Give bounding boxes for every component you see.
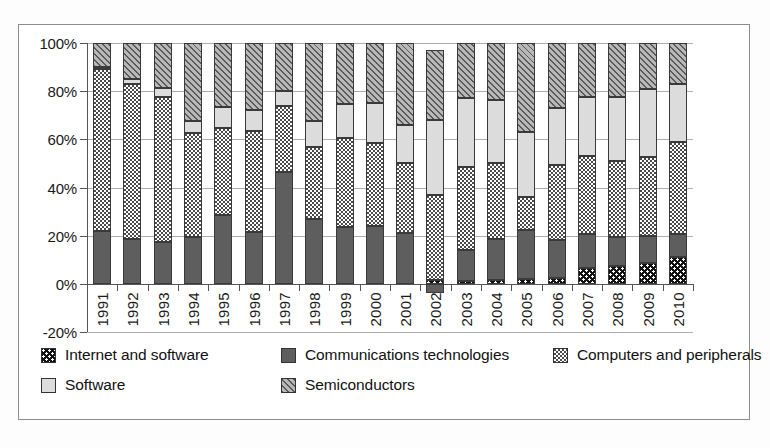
bar-segment-internet [457, 281, 475, 283]
bar-segment-semis [154, 43, 172, 88]
bar-segment-software [154, 88, 172, 98]
legend-label-semis: Semiconductors [305, 376, 415, 394]
bar-segment-comm [305, 219, 323, 284]
bar-segment-computers [123, 84, 141, 239]
bar-segment-comm [669, 234, 687, 257]
bar-segment-semis [336, 43, 354, 104]
bar-segment-comm [336, 227, 354, 284]
x-axis-label-2010: 2010 [670, 292, 687, 327]
legend-item-computers[interactable]: Computers and peripherals [553, 341, 761, 369]
x-axis-label-2008: 2008 [609, 292, 626, 327]
legend-item-software[interactable]: Software [41, 371, 125, 399]
bar-column[interactable] [639, 43, 657, 332]
bar-column[interactable] [669, 43, 687, 332]
x-axis-label-1997: 1997 [276, 292, 293, 327]
bar-column[interactable] [93, 43, 111, 332]
bar-segment-software [214, 107, 232, 129]
bar-segment-computers [396, 163, 414, 233]
gridline-80 [87, 91, 693, 92]
legend-label-comm: Communications technologies [305, 346, 509, 364]
bar-column[interactable] [396, 43, 414, 332]
bar-segment-semis [426, 50, 444, 120]
x-axis-label-2000: 2000 [367, 292, 384, 327]
bar-segment-software [305, 121, 323, 146]
bar-segment-software [578, 97, 596, 156]
bar-column[interactable] [275, 43, 293, 332]
bar-segment-semis [517, 43, 535, 132]
bar-segment-computers [426, 195, 444, 280]
bar-column[interactable] [214, 43, 232, 332]
bar-column[interactable] [366, 43, 384, 332]
x-tick-mark [693, 284, 694, 291]
x-axis-label-1991: 1991 [94, 292, 111, 327]
y-axis-tick-label: 20% [19, 227, 77, 244]
legend-item-internet[interactable]: Internet and software [41, 341, 209, 369]
bar-segment-software [336, 104, 354, 138]
x-axis-label-1999: 1999 [337, 292, 354, 327]
bar-segment-software [366, 103, 384, 143]
bar-column[interactable] [578, 43, 596, 332]
bar-segment-semis [93, 43, 111, 67]
x-axis-label-2003: 2003 [458, 292, 475, 327]
y-tick-mark [80, 43, 87, 44]
legend-item-comm[interactable]: Communications technologies [281, 341, 509, 369]
bar-segment-comm [578, 234, 596, 268]
bar-column[interactable] [457, 43, 475, 332]
bar-column[interactable] [426, 43, 444, 332]
bar-segment-computers [184, 133, 202, 237]
x-tick-mark [602, 284, 603, 291]
x-axis-label-1996: 1996 [246, 292, 263, 327]
bar-segment-comm [184, 237, 202, 284]
bar-segment-semis [305, 43, 323, 121]
bar-segment-semis [214, 43, 232, 107]
y-axis-tick-label: 60% [19, 131, 77, 148]
bar-segment-semis [123, 43, 141, 79]
legend-swatch-software [41, 378, 56, 393]
bar-segment-computers [669, 142, 687, 235]
legend-item-semis[interactable]: Semiconductors [281, 371, 415, 399]
bar-column[interactable] [517, 43, 535, 332]
bar-column[interactable] [305, 43, 323, 332]
y-axis-tick-label: -20% [19, 324, 77, 341]
bar-column[interactable] [608, 43, 626, 332]
bar-segment-computers [154, 97, 172, 242]
bar-segment-comm [517, 230, 535, 279]
legend-swatch-comm [281, 348, 296, 363]
legend-label-computers: Computers and peripherals [577, 346, 761, 364]
bar-segment-software [426, 120, 444, 195]
x-axis-label-1992: 1992 [124, 292, 141, 327]
x-tick-mark [178, 284, 179, 291]
bar-segment-comm [548, 240, 566, 277]
x-tick-mark [299, 284, 300, 291]
bar-segment-semis [608, 43, 626, 97]
bar-column[interactable] [245, 43, 263, 332]
bar-column[interactable] [184, 43, 202, 332]
bar-column[interactable] [487, 43, 505, 332]
legend: Internet and softwareCommunications tech… [33, 341, 739, 405]
bar-segment-computers [305, 147, 323, 219]
bar-segment-comm [275, 172, 293, 284]
x-tick-mark [481, 284, 482, 291]
gridline-100 [87, 43, 693, 44]
bar-segment-computers [245, 131, 263, 232]
bar-segment-computers [457, 167, 475, 250]
x-tick-mark [117, 284, 118, 291]
y-axis-tick-label: 40% [19, 179, 77, 196]
bar-column[interactable] [123, 43, 141, 332]
bar-column[interactable] [336, 43, 354, 332]
bar-segment-comm [639, 236, 657, 264]
bar-segment-computers [214, 128, 232, 215]
bar-column[interactable] [548, 43, 566, 332]
bar-segment-software [639, 89, 657, 158]
y-tick-mark [80, 139, 87, 140]
bar-segment-comm [396, 233, 414, 284]
bar-segment-software [457, 98, 475, 167]
bar-segment-comm [93, 231, 111, 284]
bar-segment-comm [245, 232, 263, 284]
bar-segment-internet [608, 266, 626, 284]
bar-segment-computers [336, 138, 354, 227]
x-tick-mark [572, 284, 573, 291]
y-tick-mark [80, 91, 87, 92]
x-axis-label-2005: 2005 [518, 292, 535, 327]
bar-column[interactable] [154, 43, 172, 332]
